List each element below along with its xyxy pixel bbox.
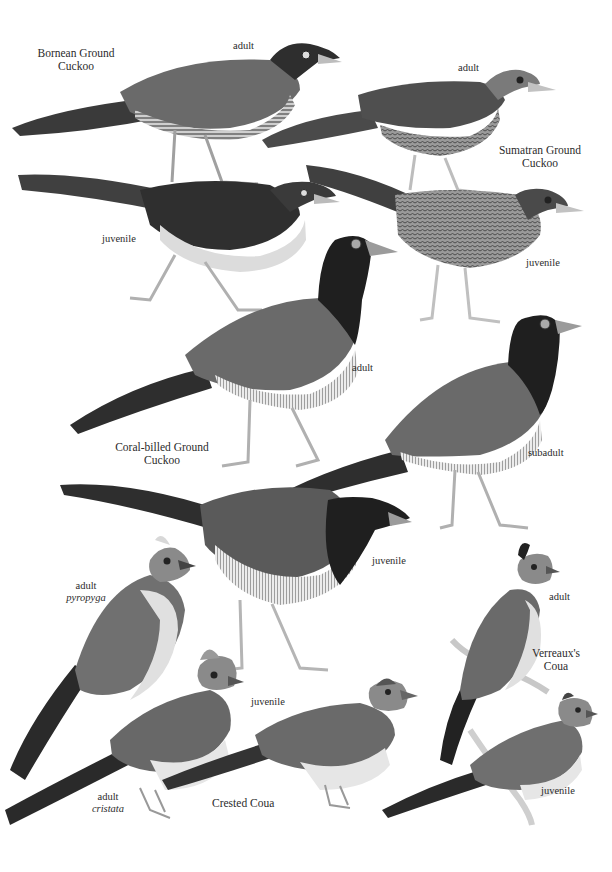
figure-label-crested-coua-cristata: adult cristata: [88, 791, 128, 815]
species-name-line1: Bornean Ground: [38, 47, 115, 59]
species-name-line2: Cuckoo: [58, 60, 94, 72]
figure-label-verreaux-adult: adult: [549, 591, 570, 603]
figure-age-label: adult: [76, 580, 97, 591]
figure-label-crested-coua-juvenile: juvenile: [251, 696, 285, 708]
bird-plate: Bornean Ground Cuckoo adult juvenile adu…: [0, 0, 612, 872]
subspecies-label: cristata: [88, 803, 128, 815]
sumatran-adult-illustration: [262, 70, 556, 194]
figure-label-coral-billed-adult: adult: [352, 362, 373, 374]
verreaux-coua-juvenile-illustration: [382, 693, 598, 825]
figure-label-bornean-adult: adult: [233, 40, 254, 52]
species-name-line1: Sumatran Ground: [499, 144, 581, 156]
figure-label-sumatran-juvenile: juvenile: [526, 257, 560, 269]
bird-illustrations: [0, 0, 612, 872]
figure-label-crested-coua-pyropyga: adult pyropyga: [66, 580, 106, 604]
species-label-coral-billed: Coral-billed Ground Cuckoo: [112, 441, 212, 467]
species-label-verreaux: Verreaux's Coua: [526, 647, 586, 673]
figure-age-label: adult: [98, 791, 119, 802]
figure-label-coral-billed-subadult: subadult: [528, 447, 564, 459]
figure-label-bornean-juvenile: juvenile: [102, 233, 136, 245]
species-name-line2: Cuckoo: [144, 454, 180, 466]
species-name-line2: Coua: [544, 660, 568, 672]
figure-label-coral-billed-juvenile: juvenile: [372, 555, 406, 567]
figure-label-sumatran-adult: adult: [458, 62, 479, 74]
bornean-juvenile-illustration: [18, 175, 340, 310]
species-name-line1: Verreaux's: [532, 647, 580, 659]
subspecies-label: pyropyga: [66, 592, 106, 604]
species-name-line2: Cuckoo: [522, 157, 558, 169]
species-label-bornean: Bornean Ground Cuckoo: [36, 47, 116, 73]
species-label-sumatran: Sumatran Ground Cuckoo: [495, 144, 585, 170]
species-label-crested-coua: Crested Coua: [212, 797, 274, 810]
figure-label-verreaux-juvenile: juvenile: [541, 785, 575, 797]
species-name-line1: Coral-billed Ground: [115, 441, 209, 453]
